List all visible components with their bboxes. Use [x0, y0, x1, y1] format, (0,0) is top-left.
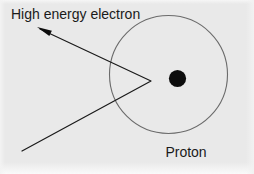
physics-diagram-figure: High energy electron Proton	[0, 0, 254, 174]
proton-nucleus-dot	[169, 70, 186, 87]
diagram-background	[0, 0, 254, 174]
diagram-canvas: High energy electron Proton	[0, 0, 254, 174]
electron-label: High energy electron	[11, 6, 140, 22]
proton-label: Proton	[165, 144, 206, 160]
